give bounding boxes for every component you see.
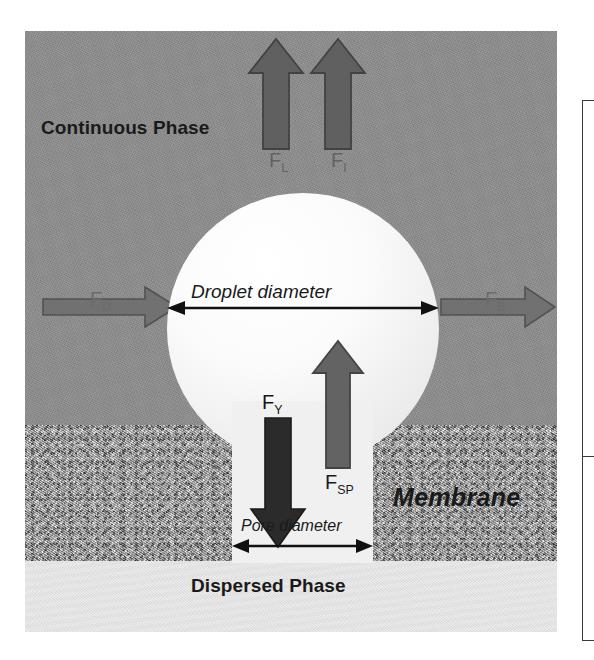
table-fragment — [582, 100, 594, 641]
force-label-drag: FD — [90, 288, 111, 314]
figure-canvas: Continuous Phase Dispersed Phase Membran… — [25, 31, 557, 632]
force-label-buoyancy: FB — [485, 288, 505, 314]
force-symbol-interfacial: F — [262, 391, 274, 413]
force-label-interfacial: FY — [262, 391, 282, 417]
force-subscript-static-pressure: SP — [337, 483, 354, 497]
force-subscript-inertial: I — [343, 161, 346, 175]
membrane-label: Membrane — [393, 483, 520, 512]
force-subscript-buoyancy: B — [497, 300, 505, 314]
continuous-phase-label: Continuous Phase — [41, 117, 209, 139]
force-symbol-inertial: F — [331, 149, 343, 171]
dispersed-phase-label: Dispersed Phase — [191, 575, 346, 597]
force-subscript-interfacial: Y — [274, 403, 282, 417]
table-rule — [583, 456, 594, 457]
force-label-inertial: FI — [331, 149, 347, 175]
force-symbol-buoyancy: F — [485, 288, 497, 310]
droplet-diameter-label: Droplet diameter — [191, 281, 331, 303]
force-symbol-drag: F — [90, 288, 102, 310]
force-label-static-pressure: FSP — [325, 471, 354, 497]
force-label-lift: FL — [269, 149, 288, 175]
force-symbol-lift: F — [269, 149, 281, 171]
force-subscript-lift: L — [281, 161, 288, 175]
pore-diameter-label: Pore diameter — [241, 517, 342, 535]
force-symbol-static-pressure: F — [325, 471, 337, 493]
force-subscript-drag: D — [102, 300, 111, 314]
diagram-page: Continuous Phase Dispersed Phase Membran… — [0, 0, 594, 660]
